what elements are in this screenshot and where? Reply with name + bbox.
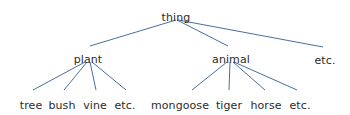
- tree-node-animal: animal: [212, 54, 250, 65]
- tree-node-vine: vine: [83, 100, 107, 111]
- tree-edge-animal-to-tiger: [229, 62, 230, 90]
- tree-node-etc_animal: etc.: [289, 100, 310, 111]
- taxonomy-tree-diagram: thingplantanimaletc.treebushvineetc.mong…: [0, 0, 350, 115]
- tree-node-tree: tree: [20, 100, 43, 111]
- tree-node-bush: bush: [48, 100, 75, 111]
- tree-edge-animal-to-horse: [233, 62, 265, 90]
- tree-edge-plant-to-etc_plant: [92, 62, 126, 90]
- tree-edge-plant-to-vine: [90, 62, 96, 90]
- tree-edge-thing-to-etc_top: [178, 20, 323, 47]
- tree-edge-plant-to-bush: [64, 62, 87, 90]
- tree-node-tiger: tiger: [216, 100, 242, 111]
- tree-node-thing: thing: [162, 12, 191, 23]
- tree-node-horse: horse: [250, 100, 281, 111]
- tree-node-plant: plant: [74, 54, 103, 65]
- tree-edge-animal-to-mongoose: [192, 62, 227, 90]
- tree-node-mongoose: mongoose: [151, 100, 209, 111]
- tree-edge-animal-to-etc_animal: [234, 62, 297, 90]
- tree-edge-plant-to-tree: [33, 62, 85, 90]
- tree-node-etc_plant: etc.: [114, 100, 135, 111]
- tree-node-etc_top: etc.: [314, 55, 335, 66]
